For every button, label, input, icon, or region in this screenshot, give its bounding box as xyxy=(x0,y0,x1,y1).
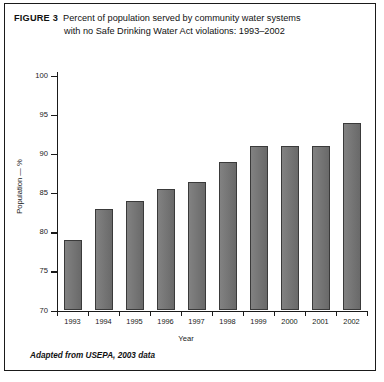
y-tick-80: 80 xyxy=(51,232,57,233)
x-tick-1999 xyxy=(243,311,244,316)
x-tick-1996 xyxy=(150,311,151,316)
x-tick-1997 xyxy=(181,311,182,316)
x-tick-label-1997: 1997 xyxy=(188,317,204,326)
bar-2000 xyxy=(281,146,299,310)
y-tick-label-85: 85 xyxy=(40,188,48,197)
bar-1994 xyxy=(95,209,113,311)
bar-1995 xyxy=(126,201,144,310)
bar-1998 xyxy=(219,162,237,311)
x-tick-2001 xyxy=(305,311,306,316)
x-tick-label-1996: 1996 xyxy=(157,317,173,326)
y-tick-label-80: 80 xyxy=(40,227,48,236)
y-tick-100: 100 xyxy=(51,76,57,77)
bar-1999 xyxy=(250,146,268,310)
x-tick-1995 xyxy=(119,311,120,316)
y-tick-label-90: 90 xyxy=(40,149,48,158)
x-tick-end xyxy=(367,311,368,316)
bar-1997 xyxy=(188,182,206,311)
x-tick-1994 xyxy=(88,311,89,316)
bar-1996 xyxy=(157,189,175,310)
x-tick-label-2000: 2000 xyxy=(281,317,297,326)
x-tick-label-1993: 1993 xyxy=(64,317,80,326)
x-tick-label-1999: 1999 xyxy=(250,317,266,326)
chart-plot-area: 707580859095100 199319941995199619971998… xyxy=(5,4,377,372)
x-tick-2000 xyxy=(274,311,275,316)
x-tick-label-1994: 1994 xyxy=(95,317,111,326)
y-axis-title: Population — % xyxy=(15,147,24,227)
bar-2002 xyxy=(343,123,361,311)
x-tick-label-1998: 1998 xyxy=(219,317,235,326)
figure-container: FIGURE 3 Percent of population served by… xyxy=(4,3,376,371)
source-note: Adapted from USEPA, 2003 data xyxy=(30,351,155,360)
bar-2001 xyxy=(312,146,330,310)
x-tick-2002 xyxy=(336,311,337,316)
y-tick-label-95: 95 xyxy=(40,110,48,119)
y-axis-line xyxy=(57,72,58,311)
y-tick-label-70: 70 xyxy=(40,306,48,315)
y-tick-85: 85 xyxy=(51,193,57,194)
y-tick-95: 95 xyxy=(51,115,57,116)
y-tick-label-75: 75 xyxy=(40,266,48,275)
x-tick-label-1995: 1995 xyxy=(126,317,142,326)
y-tick-label-100: 100 xyxy=(35,71,48,80)
x-tick-label-2001: 2001 xyxy=(312,317,328,326)
y-tick-75: 75 xyxy=(51,271,57,272)
bar-1993 xyxy=(64,240,82,310)
x-tick-label-2002: 2002 xyxy=(343,317,359,326)
x-tick-1998 xyxy=(212,311,213,316)
y-tick-90: 90 xyxy=(51,154,57,155)
x-axis-title: Year xyxy=(5,334,367,343)
x-tick-1993 xyxy=(57,311,58,316)
